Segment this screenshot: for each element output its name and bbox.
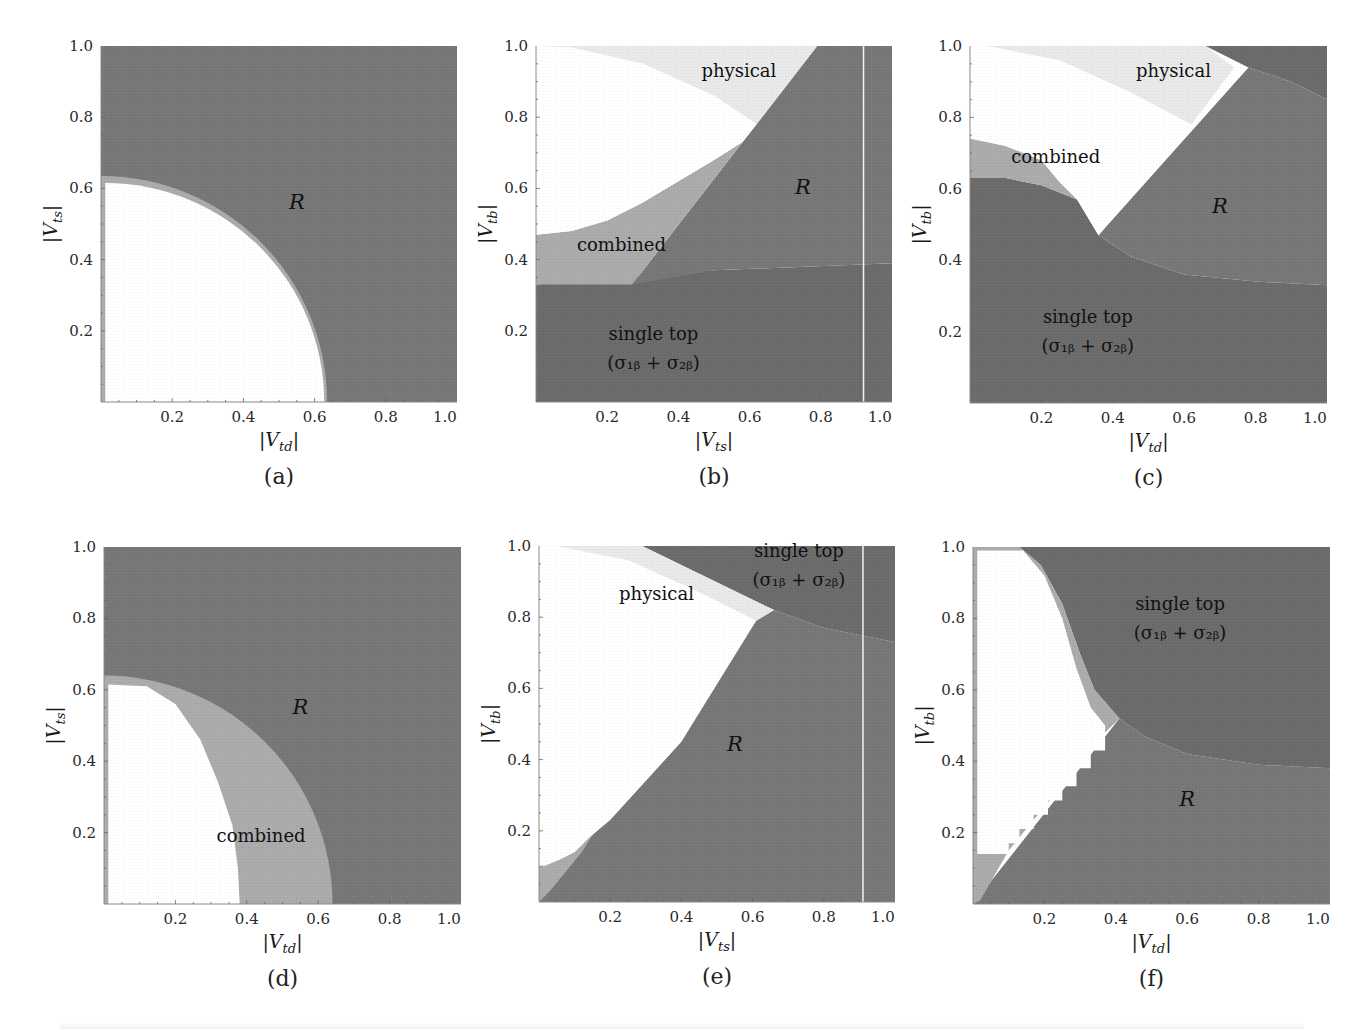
y-axis-label: |Vtb| — [911, 705, 937, 745]
y-axis-label: |Vts| — [42, 706, 68, 744]
panel-b: 0.20.40.60.81.00.20.40.60.81.0|Vts||Vtb|… — [536, 46, 892, 402]
x-tick-label: 0.4 — [231, 408, 255, 426]
y-tick-label: 0.8 — [507, 608, 531, 626]
y-tick-label: 0.2 — [504, 322, 528, 340]
y-tick-label: 1.0 — [938, 37, 962, 55]
x-tick-label: 0.6 — [1172, 409, 1196, 427]
y-axis-label: |Vts| — [39, 205, 65, 243]
region-label: (σ₁ᵦ + σ₂ᵦ) — [1134, 622, 1227, 643]
x-tick-label: 0.2 — [1032, 910, 1056, 928]
y-tick-label: 0.4 — [938, 251, 962, 269]
panel-c: 0.20.40.60.81.00.20.40.60.81.0|Vtd||Vtb|… — [970, 46, 1327, 403]
region-label: combined — [577, 234, 666, 255]
x-tick-label: 0.6 — [741, 908, 765, 926]
x-tick-label: 1.0 — [871, 908, 895, 926]
region-label: combined — [217, 825, 306, 846]
panel-a: 0.20.40.60.81.00.20.40.60.81.0|Vtd||Vts|… — [101, 46, 457, 402]
y-tick-label: 1.0 — [69, 37, 93, 55]
y-tick-label: 0.6 — [69, 179, 93, 197]
y-tick-label: 0.2 — [69, 322, 93, 340]
figure-caption-clipped — [60, 1022, 1304, 1029]
y-tick-label: 0.4 — [69, 251, 93, 269]
y-tick-label: 0.2 — [941, 824, 965, 842]
x-tick-label: 0.4 — [669, 908, 693, 926]
y-tick-label: 1.0 — [507, 537, 531, 555]
x-tick-label: 1.0 — [868, 408, 892, 426]
region-label: physical — [1136, 60, 1211, 81]
y-tick-label: 0.6 — [938, 180, 962, 198]
x-tick-label: 0.6 — [1175, 910, 1199, 928]
plot-area-f: 0.20.40.60.81.00.20.40.60.81.0|Vtd||Vtb|… — [973, 547, 1330, 904]
region-label: R — [1211, 194, 1228, 218]
region-label: single top — [1135, 593, 1225, 614]
panel-d: 0.20.40.60.81.00.20.40.60.81.0|Vtd||Vts|… — [104, 547, 461, 904]
y-tick-label: 0.4 — [72, 752, 96, 770]
x-tick-label: 0.2 — [598, 908, 622, 926]
y-tick-label: 0.8 — [504, 108, 528, 126]
x-tick-label: 0.4 — [1104, 910, 1128, 928]
x-tick-label: 0.8 — [1244, 409, 1268, 427]
y-tick-label: 0.2 — [507, 822, 531, 840]
x-tick-label: 0.2 — [160, 408, 184, 426]
x-axis-label: |Vts| — [698, 928, 736, 954]
x-tick-label: 0.2 — [163, 910, 187, 928]
x-tick-label: 0.4 — [235, 910, 259, 928]
y-tick-label: 0.8 — [941, 609, 965, 627]
subfigure-caption: (a) — [264, 464, 294, 489]
x-tick-label: 0.8 — [1247, 910, 1271, 928]
y-tick-label: 1.0 — [941, 538, 965, 556]
region-label: (σ₁ᵦ + σ₂ᵦ) — [607, 352, 700, 373]
region-label: R — [726, 732, 743, 756]
x-tick-label: 0.8 — [812, 908, 836, 926]
y-tick-label: 0.4 — [507, 751, 531, 769]
y-tick-label: 0.4 — [504, 251, 528, 269]
x-tick-label: 0.4 — [666, 408, 690, 426]
region-label: physical — [619, 583, 694, 604]
y-tick-label: 1.0 — [72, 538, 96, 556]
region-label: (σ₁ᵦ + σ₂ᵦ) — [1041, 335, 1134, 356]
y-tick-label: 0.2 — [72, 824, 96, 842]
y-tick-label: 0.6 — [72, 681, 96, 699]
y-tick-label: 0.4 — [941, 752, 965, 770]
region-label: single top — [754, 540, 844, 561]
x-tick-label: 0.8 — [374, 408, 398, 426]
y-tick-label: 1.0 — [504, 37, 528, 55]
x-tick-label: 0.6 — [306, 910, 330, 928]
y-tick-label: 0.2 — [938, 323, 962, 341]
y-axis-label: |Vtb| — [908, 204, 934, 244]
plot-area-b: 0.20.40.60.81.00.20.40.60.81.0|Vts||Vtb|… — [536, 46, 892, 402]
x-tick-label: 0.2 — [595, 408, 619, 426]
x-axis-label: |Vtd| — [262, 930, 302, 956]
panel-e: 0.20.40.60.81.00.20.40.60.81.0|Vts||Vtb|… — [539, 546, 895, 902]
x-tick-label: 0.6 — [303, 408, 327, 426]
y-tick-label: 0.8 — [938, 108, 962, 126]
region-label: R — [288, 190, 305, 214]
region-label: R — [1178, 787, 1195, 811]
subfigure-caption: (b) — [698, 464, 729, 489]
subfigure-caption: (f) — [1139, 966, 1164, 991]
x-tick-label: 1.0 — [1306, 910, 1330, 928]
x-tick-label: 1.0 — [437, 910, 461, 928]
y-axis-label: |Vtb| — [474, 204, 500, 244]
subfigure-caption: (c) — [1134, 465, 1164, 490]
plot-area-c: 0.20.40.60.81.00.20.40.60.81.0|Vtd||Vtb|… — [970, 46, 1327, 403]
y-tick-label: 0.6 — [507, 679, 531, 697]
region-label: physical — [701, 60, 776, 81]
subfigure-caption: (d) — [267, 966, 298, 991]
plot-area-e: 0.20.40.60.81.00.20.40.60.81.0|Vts||Vtb|… — [539, 546, 895, 902]
x-axis-label: |Vts| — [695, 428, 733, 454]
x-tick-label: 0.8 — [809, 408, 833, 426]
plot-area-a: 0.20.40.60.81.00.20.40.60.81.0|Vtd||Vts|… — [101, 46, 457, 402]
y-axis-label: |Vtb| — [477, 704, 503, 744]
y-tick-label: 0.6 — [941, 681, 965, 699]
region-label: R — [794, 175, 811, 199]
x-tick-label: 1.0 — [1303, 409, 1327, 427]
x-tick-label: 0.4 — [1101, 409, 1125, 427]
y-tick-label: 0.8 — [72, 609, 96, 627]
x-tick-label: 0.8 — [378, 910, 402, 928]
region-label: single top — [609, 323, 699, 344]
subfigure-caption: (e) — [702, 964, 732, 989]
x-axis-label: |Vtd| — [1128, 429, 1168, 455]
y-tick-label: 0.8 — [69, 108, 93, 126]
x-tick-label: 1.0 — [433, 408, 457, 426]
